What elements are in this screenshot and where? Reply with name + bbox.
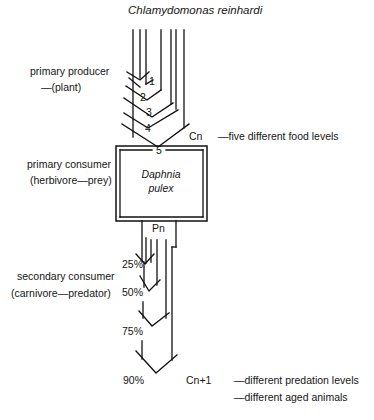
food-level-3: 3	[146, 106, 152, 119]
food-input-arrows	[122, 30, 189, 147]
predation-50: 50%	[122, 286, 143, 299]
food-level-1: 1	[149, 75, 155, 88]
predation-75: 75%	[122, 325, 143, 338]
pn-label: Pn	[152, 222, 165, 235]
food-level-4: 4	[145, 122, 151, 135]
cn1-label: Cn+1	[186, 374, 211, 387]
cn1-note-age: —different aged animals	[234, 391, 348, 404]
predation-25: 25%	[122, 258, 143, 271]
cn-label: Cn	[189, 130, 202, 143]
daphnia-label-line2: pulex	[136, 182, 186, 195]
cn-note: —five different food levels	[218, 130, 339, 143]
predation-90: 90%	[123, 374, 144, 387]
food-level-2: 2	[140, 91, 146, 104]
food-level-5: 5	[156, 144, 162, 157]
food-chain-diagram	[0, 0, 374, 420]
cn1-note-predation: —different predation levels	[234, 374, 359, 387]
daphnia-label-line1: Daphnia	[136, 168, 186, 181]
